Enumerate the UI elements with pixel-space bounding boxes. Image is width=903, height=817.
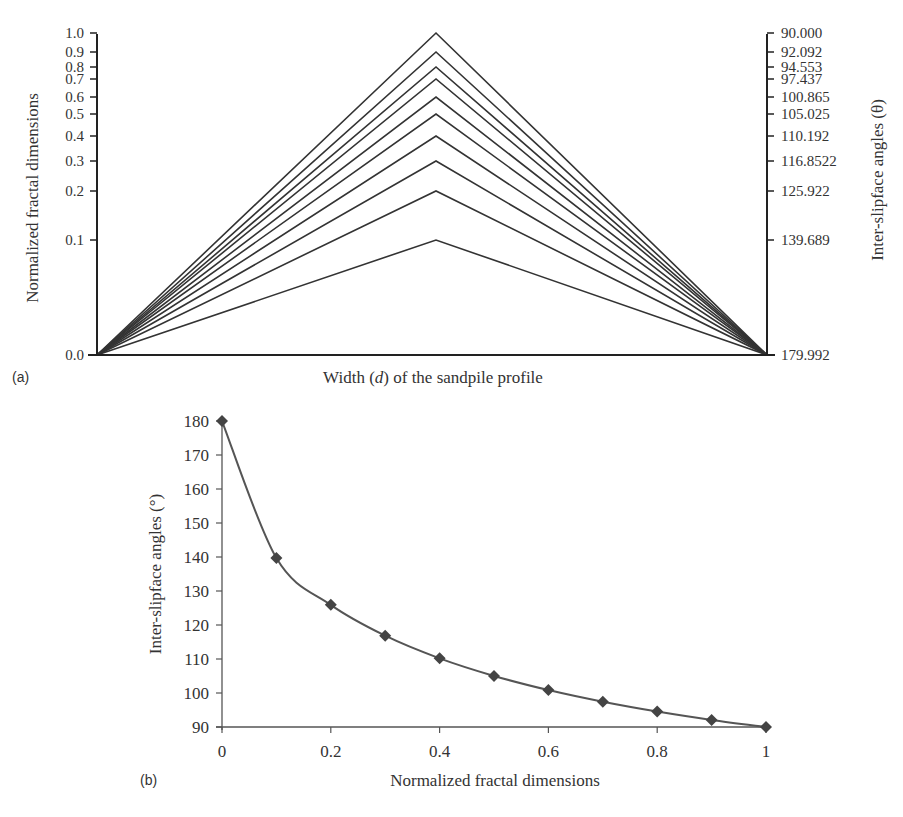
tick-label: 0.6 (538, 742, 559, 761)
chart-a: 0.00.10.20.30.40.50.60.70.80.91.0 179.99… (12, 25, 887, 387)
diamond-marker (379, 630, 391, 642)
diamond-marker (270, 552, 282, 564)
diamond-marker (542, 684, 554, 696)
tick-label: 0.0 (65, 347, 84, 363)
profile-line (97, 114, 767, 355)
chart-a-x-axis-title: Width (d) of the sandpile profile (323, 368, 543, 387)
tick-label: 140 (184, 548, 210, 567)
chart-b-y-axis-title: Inter-slipface angles (°) (146, 494, 165, 654)
tick-label: 0.6 (65, 89, 84, 105)
tick-label: 0 (218, 742, 227, 761)
tick-label: 0.8 (647, 742, 668, 761)
tick-label: 125.922 (781, 183, 830, 199)
panel-label-a: (a) (12, 369, 29, 385)
tick-label: 90.000 (781, 25, 822, 41)
tick-label: 0.3 (65, 153, 84, 169)
profile-line (97, 97, 767, 355)
chart-a-right-axis-title: Inter-slipface angles (θ) (868, 99, 887, 261)
chart-a-left-axis-title: Normalized fractal dimensions (23, 93, 42, 303)
chart-a-right-ticks: 179.992139.689125.922116.8522110.192105.… (767, 25, 837, 363)
diamond-marker (325, 599, 337, 611)
tick-label: 120 (184, 616, 210, 635)
profile-line (97, 136, 767, 355)
profile-line (97, 79, 767, 355)
chart-b-x-ticks: 00.20.40.60.81 (218, 727, 771, 761)
tick-label: 94.553 (781, 59, 822, 75)
diamond-marker (597, 696, 609, 708)
tick-label: 100.865 (781, 89, 830, 105)
tick-label: 160 (184, 480, 210, 499)
tick-label: 179.992 (781, 347, 830, 363)
profile-line (97, 67, 767, 355)
tick-label: 0.4 (65, 128, 84, 144)
tick-label: 0.2 (320, 742, 341, 761)
tick-label: 0.1 (65, 232, 84, 248)
diamond-marker (651, 706, 663, 718)
tick-label: 170 (184, 446, 210, 465)
tick-label: 0.9 (65, 44, 84, 60)
tick-label: 110 (184, 650, 209, 669)
diamond-marker (488, 670, 500, 682)
tick-label: 1.0 (65, 25, 84, 41)
figure: 0.00.10.20.30.40.50.60.70.80.91.0 179.99… (0, 0, 903, 817)
tick-label: 180 (184, 412, 210, 431)
tick-label: 0.2 (65, 183, 84, 199)
chart-b-x-axis-title: Normalized fractal dimensions (390, 771, 600, 790)
tick-label: 150 (184, 514, 210, 533)
chart-b: 90100110120130140150160170180 00.20.40.6… (140, 412, 772, 790)
tick-label: 105.025 (781, 106, 830, 122)
tick-label: 1 (762, 742, 771, 761)
diamond-marker (706, 714, 718, 726)
tick-label: 130 (184, 582, 210, 601)
tick-label: 0.8 (65, 59, 84, 75)
profile-line (97, 52, 767, 355)
tick-label: 90 (192, 718, 209, 737)
tick-label: 110.192 (781, 128, 829, 144)
chart-b-markers (216, 415, 772, 733)
chart-b-y-ticks: 90100110120130140150160170180 (184, 412, 223, 737)
tick-label: 92.092 (781, 44, 822, 60)
diamond-marker (760, 721, 772, 733)
tick-label: 0.5 (65, 106, 84, 122)
panel-label-b: (b) (140, 772, 157, 788)
diamond-marker (216, 415, 228, 427)
tick-label: 116.8522 (781, 153, 837, 169)
chart-a-profiles (97, 33, 767, 355)
tick-label: 139.689 (781, 232, 830, 248)
tick-label: 100 (184, 684, 210, 703)
diamond-marker (434, 652, 446, 664)
tick-label: 0.4 (429, 742, 451, 761)
chart-a-left-ticks: 0.00.10.20.30.40.50.60.70.80.91.0 (65, 25, 97, 363)
